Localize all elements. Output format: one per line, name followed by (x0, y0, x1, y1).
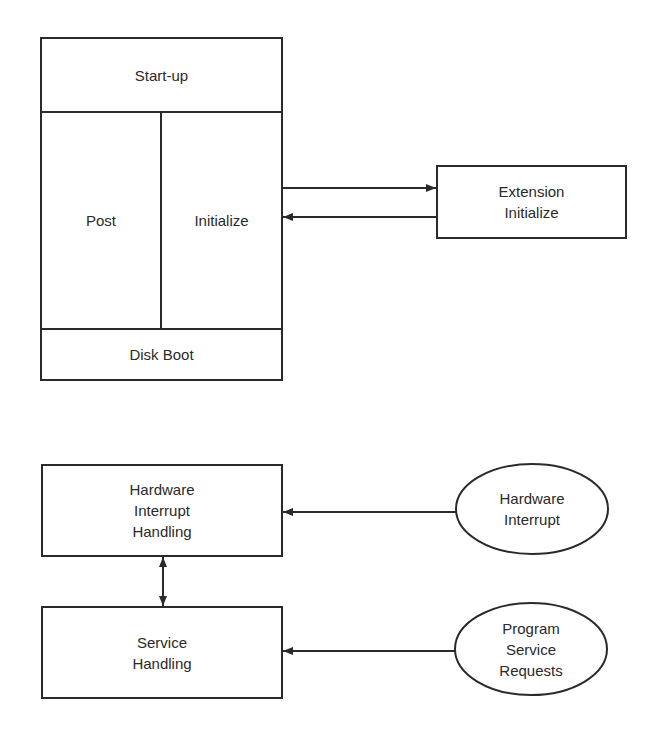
extension-initialize-label: Extension Initialize (437, 166, 626, 238)
hardware-interrupt-handling-label: Hardware Interrupt Handling (42, 465, 282, 556)
startup-label: Start-up (41, 38, 282, 112)
post-label: Post (41, 112, 161, 329)
service-handling-label: Service Handling (42, 607, 282, 698)
program-service-requests-label: Program Service Requests (455, 603, 607, 695)
initialize-label: Initialize (161, 112, 282, 329)
hardware-interrupt-label: Hardware Interrupt (456, 464, 608, 554)
disk-boot-label: Disk Boot (41, 329, 282, 380)
